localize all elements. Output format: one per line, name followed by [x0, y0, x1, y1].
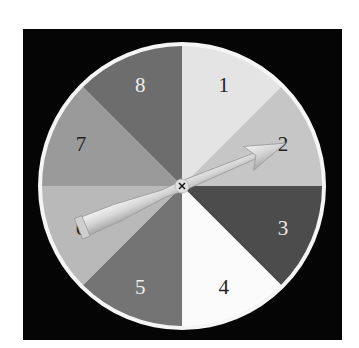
segment-label-1: 1 [219, 73, 230, 97]
segment-label-5: 5 [135, 275, 146, 299]
segment-label-4: 4 [219, 275, 230, 299]
segment-label-3: 3 [278, 216, 289, 240]
segment-label-7: 7 [76, 132, 87, 156]
spinner[interactable]: 12345678 [0, 0, 359, 348]
segment-label-8: 8 [135, 73, 146, 97]
